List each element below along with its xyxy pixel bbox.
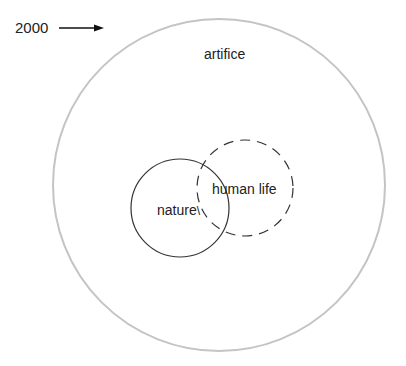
diagram-canvas [0, 0, 406, 366]
artifice-label: artifice [204, 47, 245, 61]
right-arrow-icon [59, 25, 104, 32]
nature-label: nature\ [157, 203, 200, 217]
year-label: 2000 [15, 20, 48, 35]
human-life-label: human life [212, 182, 277, 196]
